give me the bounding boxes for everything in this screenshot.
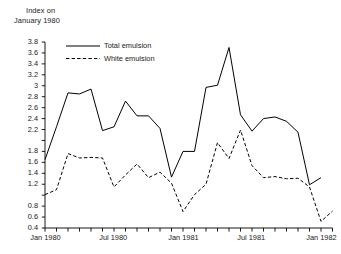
series-line-white-emulsion <box>45 130 333 221</box>
line-chart: Index on January 1980 3.83.63.43.232.82.… <box>0 0 341 254</box>
data-series <box>45 47 333 221</box>
legend-label-solid: Total emulsion <box>104 42 151 50</box>
series-line-total-emulsion <box>45 47 321 184</box>
plot-area <box>0 0 341 254</box>
legend-swatches <box>66 46 100 59</box>
axes <box>42 42 333 232</box>
legend-label-dashed: White emulsion <box>104 55 155 63</box>
